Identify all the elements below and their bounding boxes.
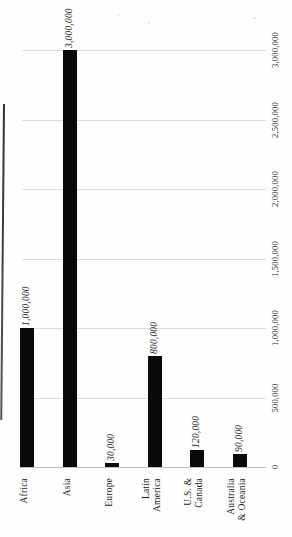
category-axis-line bbox=[20, 467, 266, 468]
gridline bbox=[22, 398, 266, 399]
scan-speck bbox=[117, 14, 120, 16]
value-axis-tick-label: 1,500,000 bbox=[271, 241, 281, 277]
bar-value-label: 30,000 bbox=[106, 434, 117, 461]
value-axis-tick-label: 0 bbox=[271, 465, 281, 469]
bar-asia bbox=[63, 50, 77, 467]
bar-value-label: 1,000,000 bbox=[21, 286, 32, 326]
value-axis-tick-label: 500,000 bbox=[271, 383, 281, 412]
category-label: Australia & Oceania bbox=[226, 478, 247, 521]
bar-latin-america bbox=[148, 356, 162, 467]
bar-u-s-canada bbox=[190, 450, 204, 467]
category-label: U.S. & Canada bbox=[183, 478, 204, 508]
gridline bbox=[22, 189, 266, 190]
bar-value-label: 120,000 bbox=[191, 416, 202, 448]
category-label: Africa bbox=[19, 478, 30, 503]
scan-artifact-line bbox=[0, 104, 4, 420]
value-axis-tick-label: 3,000,000 bbox=[271, 32, 281, 68]
scan-speck bbox=[148, 22, 150, 24]
scanned-chart-page: 0500,0001,000,0001,500,0002,000,0002,500… bbox=[0, 0, 292, 537]
value-axis-tick-label: 1,000,000 bbox=[271, 310, 281, 346]
gridline bbox=[22, 328, 266, 329]
bar-value-label: 3,000,000 bbox=[64, 8, 75, 48]
gridline bbox=[22, 50, 266, 51]
category-label: Asia bbox=[62, 478, 73, 496]
category-label: Europe bbox=[104, 478, 115, 507]
bar-australia-oceania bbox=[233, 454, 247, 467]
value-axis-tick-label: 2,000,000 bbox=[271, 171, 281, 207]
scan-speck bbox=[253, 17, 256, 19]
category-label: Latin America bbox=[141, 478, 162, 512]
bar-value-label: 90,000 bbox=[234, 425, 245, 452]
value-axis-tick-label: 2,500,000 bbox=[271, 102, 281, 138]
gridline bbox=[22, 259, 266, 260]
bar-africa bbox=[20, 328, 34, 467]
bar-value-label: 800,000 bbox=[149, 322, 160, 354]
gridline bbox=[22, 120, 266, 121]
bar-europe bbox=[105, 463, 119, 467]
